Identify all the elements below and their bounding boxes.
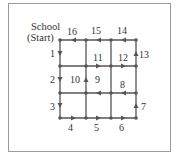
arrow-left-icon: [121, 91, 126, 96]
segment-label-1: 1: [50, 48, 55, 59]
segment-label-9: 9: [95, 74, 100, 85]
arrow-right-icon: [121, 116, 126, 121]
arrow-left-icon: [121, 38, 126, 43]
arrow-down-icon: [58, 51, 63, 56]
arrow-up-icon: [134, 51, 139, 56]
segment-label-13: 13: [139, 49, 149, 60]
arrow-down-icon: [58, 103, 63, 108]
start-label-start: (Start): [27, 32, 54, 44]
segment-label-12: 12: [118, 52, 128, 63]
arrow-left-icon: [96, 91, 101, 96]
segment-label-6: 6: [119, 122, 124, 133]
segment-label-4: 4: [68, 122, 73, 133]
segment-label-3: 3: [50, 101, 55, 112]
segment-label-10: 10: [70, 74, 80, 85]
arrow-right-icon: [96, 116, 101, 121]
arrow-right-icon: [96, 64, 101, 69]
arrow-up-icon: [84, 77, 89, 82]
arrow-down-icon: [58, 77, 63, 82]
segment-label-11: 11: [93, 52, 103, 63]
route-grid-diagram: School (Start) 1 2 3 4 5 6 7 8 9 10 11 1…: [0, 0, 179, 160]
segment-label-7: 7: [141, 101, 146, 112]
segment-label-8: 8: [120, 79, 125, 90]
arrow-left-icon: [96, 38, 101, 43]
segment-label-15: 15: [91, 25, 101, 36]
arrow-up-icon: [134, 103, 139, 108]
segment-label-14: 14: [117, 25, 127, 36]
start-label-school: School: [31, 21, 60, 32]
segment-label-5: 5: [94, 122, 99, 133]
segment-label-16: 16: [67, 26, 77, 37]
segment-label-2: 2: [50, 74, 55, 85]
arrow-right-icon: [71, 116, 76, 121]
arrow-right-icon: [121, 64, 126, 69]
arrow-left-icon: [71, 38, 76, 43]
